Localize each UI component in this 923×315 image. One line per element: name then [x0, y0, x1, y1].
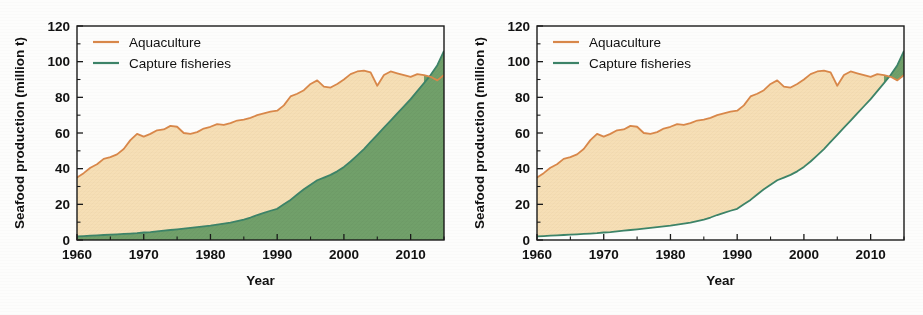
y-tick-label: 80 [515, 90, 530, 105]
y-tick-label: 80 [55, 90, 70, 105]
x-tick-label: 1960 [62, 247, 92, 262]
y-axis-title: Seafood production (million t) [12, 37, 27, 229]
plot-area [537, 51, 904, 236]
legend-label-aquaculture: Aquaculture [129, 35, 201, 50]
x-tick-label: 1970 [129, 247, 159, 262]
y-tick-label: 120 [47, 19, 70, 34]
x-tick-label: 1960 [522, 247, 552, 262]
x-tick-label: 2000 [789, 247, 819, 262]
y-tick-label: 0 [62, 233, 70, 248]
x-tick-label: 1990 [722, 247, 752, 262]
y-tick-label: 40 [55, 161, 70, 176]
y-tick-label: 100 [507, 54, 530, 69]
y-axis-title: Seafood production (million t) [472, 37, 487, 229]
y-tick-label: 0 [522, 233, 530, 248]
y-tick-label: 120 [507, 19, 530, 34]
legend-label-capture-fisheries: Capture fisheries [589, 56, 691, 71]
y-tick-label: 20 [515, 197, 530, 212]
x-axis-title: Year [246, 273, 275, 288]
x-tick-label: 2000 [329, 247, 359, 262]
y-tick-label: 40 [515, 161, 530, 176]
legend: AquacultureCapture fisheries [93, 35, 231, 71]
figure-canvas: 020406080100120196019701980199020002010Y… [0, 0, 923, 315]
chart-panel-right: 020406080100120196019701980199020002010Y… [461, 0, 923, 315]
legend-label-aquaculture: Aquaculture [589, 35, 661, 50]
x-axis-title: Year [706, 273, 735, 288]
y-tick-label: 100 [47, 54, 70, 69]
chart-left-svg: 020406080100120196019701980199020002010Y… [0, 0, 461, 315]
x-tick-label: 1980 [655, 247, 685, 262]
panel-row: 020406080100120196019701980199020002010Y… [0, 0, 923, 315]
x-tick-label: 1980 [195, 247, 225, 262]
tan-band-fill [537, 51, 904, 236]
x-tick-label: 2010 [856, 247, 886, 262]
y-tick-label: 60 [515, 126, 530, 141]
legend-label-capture-fisheries: Capture fisheries [129, 56, 231, 71]
x-tick-label: 1990 [262, 247, 292, 262]
y-tick-label: 20 [55, 197, 70, 212]
y-tick-label: 60 [55, 126, 70, 141]
plot-area [77, 51, 444, 240]
chart-panel-left: 020406080100120196019701980199020002010Y… [0, 0, 461, 315]
chart-right-svg: 020406080100120196019701980199020002010Y… [461, 0, 923, 315]
legend: AquacultureCapture fisheries [553, 35, 691, 71]
x-tick-label: 1970 [589, 247, 619, 262]
x-tick-label: 2010 [396, 247, 426, 262]
